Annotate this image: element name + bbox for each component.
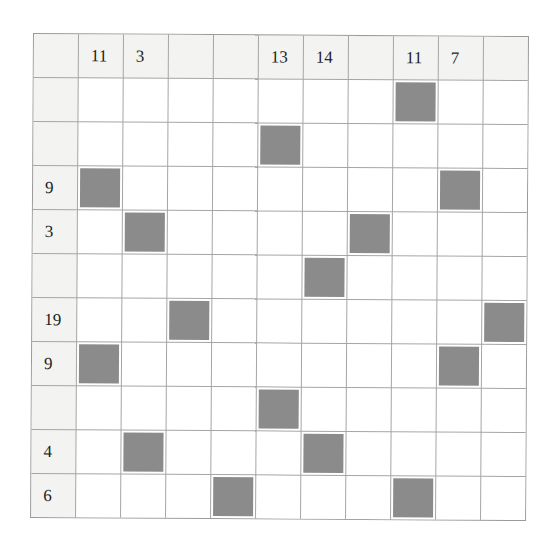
- empty-cell[interactable]: [167, 255, 211, 298]
- empty-cell[interactable]: [122, 299, 166, 342]
- empty-cell[interactable]: [168, 167, 212, 210]
- empty-cell[interactable]: [212, 299, 256, 342]
- empty-cell[interactable]: [121, 475, 165, 518]
- empty-cell[interactable]: [392, 300, 436, 343]
- empty-cell[interactable]: [122, 387, 166, 430]
- empty-cell[interactable]: [391, 432, 435, 475]
- empty-cell[interactable]: [347, 388, 391, 431]
- shaded-cell[interactable]: [121, 431, 165, 474]
- empty-cell[interactable]: [393, 168, 437, 211]
- empty-cell[interactable]: [213, 167, 257, 210]
- empty-cell[interactable]: [258, 79, 302, 122]
- empty-cell[interactable]: [212, 387, 256, 430]
- empty-cell[interactable]: [348, 80, 392, 123]
- empty-cell[interactable]: [78, 122, 122, 165]
- shaded-cell[interactable]: [78, 166, 122, 209]
- empty-cell[interactable]: [346, 432, 390, 475]
- empty-cell[interactable]: [303, 212, 347, 255]
- shaded-cell[interactable]: [258, 123, 302, 166]
- empty-cell[interactable]: [258, 211, 302, 254]
- shaded-cell[interactable]: [482, 301, 526, 344]
- empty-cell[interactable]: [166, 475, 210, 518]
- empty-cell[interactable]: [347, 300, 391, 343]
- empty-cell[interactable]: [392, 388, 436, 431]
- empty-cell[interactable]: [168, 123, 212, 166]
- empty-cell[interactable]: [167, 387, 211, 430]
- shaded-cell[interactable]: [77, 342, 121, 385]
- empty-cell[interactable]: [123, 123, 167, 166]
- empty-cell[interactable]: [392, 256, 436, 299]
- empty-cell[interactable]: [303, 124, 347, 167]
- empty-cell[interactable]: [437, 256, 481, 299]
- empty-cell[interactable]: [213, 79, 257, 122]
- empty-cell[interactable]: [482, 345, 526, 388]
- empty-cell[interactable]: [347, 256, 391, 299]
- empty-cell[interactable]: [438, 212, 482, 255]
- empty-cell[interactable]: [436, 432, 480, 475]
- empty-cell[interactable]: [213, 123, 257, 166]
- empty-cell[interactable]: [123, 167, 167, 210]
- shaded-cell[interactable]: [211, 475, 255, 518]
- empty-cell[interactable]: [393, 124, 437, 167]
- empty-cell[interactable]: [303, 168, 347, 211]
- empty-cell[interactable]: [78, 210, 122, 253]
- empty-cell[interactable]: [482, 257, 526, 300]
- empty-cell[interactable]: [212, 255, 256, 298]
- empty-cell[interactable]: [76, 430, 120, 473]
- empty-cell[interactable]: [76, 474, 120, 517]
- empty-cell[interactable]: [257, 299, 301, 342]
- shaded-cell[interactable]: [393, 80, 437, 123]
- empty-cell[interactable]: [166, 431, 210, 474]
- empty-cell[interactable]: [346, 476, 390, 519]
- shaded-cell[interactable]: [348, 212, 392, 255]
- empty-cell[interactable]: [256, 431, 300, 474]
- empty-cell[interactable]: [437, 300, 481, 343]
- empty-cell[interactable]: [483, 213, 527, 256]
- empty-cell[interactable]: [78, 78, 122, 121]
- empty-cell[interactable]: [348, 124, 392, 167]
- shaded-cell[interactable]: [438, 168, 482, 211]
- empty-cell[interactable]: [257, 343, 301, 386]
- empty-cell[interactable]: [438, 80, 482, 123]
- empty-cell[interactable]: [302, 388, 346, 431]
- empty-cell[interactable]: [436, 476, 480, 519]
- empty-cell[interactable]: [257, 255, 301, 298]
- shaded-cell[interactable]: [437, 344, 481, 387]
- empty-cell[interactable]: [123, 79, 167, 122]
- empty-cell[interactable]: [211, 431, 255, 474]
- empty-cell[interactable]: [258, 167, 302, 210]
- empty-cell[interactable]: [77, 298, 121, 341]
- shaded-cell[interactable]: [301, 432, 345, 475]
- empty-cell[interactable]: [482, 389, 526, 432]
- empty-cell[interactable]: [256, 475, 300, 518]
- empty-cell[interactable]: [168, 79, 212, 122]
- empty-cell[interactable]: [212, 343, 256, 386]
- shaded-cell[interactable]: [302, 256, 346, 299]
- empty-cell[interactable]: [393, 212, 437, 255]
- empty-cell[interactable]: [481, 433, 525, 476]
- shaded-cell[interactable]: [391, 476, 435, 519]
- empty-cell[interactable]: [302, 344, 346, 387]
- shaded-cell[interactable]: [257, 387, 301, 430]
- empty-cell[interactable]: [303, 80, 347, 123]
- empty-cell[interactable]: [483, 169, 527, 212]
- empty-cell[interactable]: [347, 344, 391, 387]
- shaded-cell[interactable]: [123, 211, 167, 254]
- empty-cell[interactable]: [348, 168, 392, 211]
- empty-cell[interactable]: [302, 300, 346, 343]
- empty-cell[interactable]: [168, 211, 212, 254]
- empty-cell[interactable]: [481, 477, 525, 520]
- empty-cell[interactable]: [122, 343, 166, 386]
- empty-cell[interactable]: [392, 344, 436, 387]
- empty-cell[interactable]: [167, 343, 211, 386]
- empty-cell[interactable]: [77, 254, 121, 297]
- empty-cell[interactable]: [438, 124, 482, 167]
- shaded-cell[interactable]: [167, 299, 211, 342]
- empty-cell[interactable]: [437, 388, 481, 431]
- empty-cell[interactable]: [301, 476, 345, 519]
- empty-cell[interactable]: [483, 81, 527, 124]
- empty-cell[interactable]: [122, 255, 166, 298]
- empty-cell[interactable]: [213, 211, 257, 254]
- empty-cell[interactable]: [77, 386, 121, 429]
- empty-cell[interactable]: [483, 125, 527, 168]
